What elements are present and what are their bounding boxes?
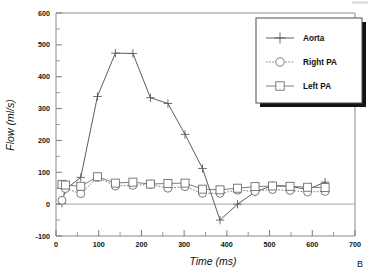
square-marker [276,82,284,90]
square-marker [286,182,294,190]
circle-marker [58,196,66,204]
y-tick-label: 200 [38,136,50,145]
x-tick-label: 700 [349,240,361,249]
x-tick-label: 0 [54,240,58,249]
circle-marker [276,58,284,66]
y-tick-label: 0 [46,200,50,209]
square-marker [164,179,172,187]
square-marker [93,173,101,181]
y-tick-label: 500 [38,40,50,49]
y-tick-label: 400 [38,72,50,81]
x-tick-label: 200 [135,240,147,249]
scan-artifact [352,1,368,4]
y-tick-label: -100 [36,232,50,241]
y-axis-title: Flow (ml/s) [4,99,16,150]
square-marker [304,183,312,191]
plus-star-marker [164,99,172,107]
legend-label-left-pa: Left PA [303,82,331,91]
y-axis-tick-labels: 600 500 400 300 200 100 0 -100 [36,9,50,241]
x-axis-title: Time (ms) [189,255,236,267]
plus-star-marker [129,49,137,57]
square-marker [111,179,119,187]
series-left-pa [58,173,329,194]
flow-vs-time-line-chart: 600 500 400 300 200 100 0 -100 0 100 200… [0,0,376,272]
square-marker [321,184,329,192]
circle-marker [77,190,85,198]
y-axis-minor-ticks [56,29,60,220]
x-tick-label: 500 [264,240,276,249]
square-marker [199,185,207,193]
x-tick-label: 400 [221,240,233,249]
figure-panel: 600 500 400 300 200 100 0 -100 0 100 200… [0,0,376,272]
panel-label: B [357,259,363,269]
x-tick-label: 100 [93,240,105,249]
square-marker [234,184,242,192]
square-marker [251,183,259,191]
x-axis-tick-labels: 0 100 200 300 400 500 600 700 [54,240,361,249]
square-marker [129,178,137,186]
y-tick-label: 100 [38,168,50,177]
x-tick-label: 300 [178,240,190,249]
plus-star-marker [93,92,101,100]
square-marker [216,186,224,194]
plus-star-marker [146,94,154,102]
x-axis-minor-ticks [77,232,333,236]
plus-star-marker [77,173,85,181]
x-tick-label: 600 [306,240,318,249]
plus-star-marker [181,130,189,138]
legend-label-aorta: Aorta [303,34,325,43]
y-tick-label: 600 [38,9,50,18]
legend-label-right-pa: Right PA [303,58,337,67]
plus-star-marker [111,49,119,57]
plus-star-marker [198,164,206,172]
square-marker [181,179,189,187]
square-marker [61,181,69,189]
y-tick-label: 300 [38,104,50,113]
square-marker [269,182,277,190]
square-marker [146,180,154,188]
square-marker [77,182,85,190]
chart-legend[interactable]: Aorta Right PA Left PA [256,18,366,107]
